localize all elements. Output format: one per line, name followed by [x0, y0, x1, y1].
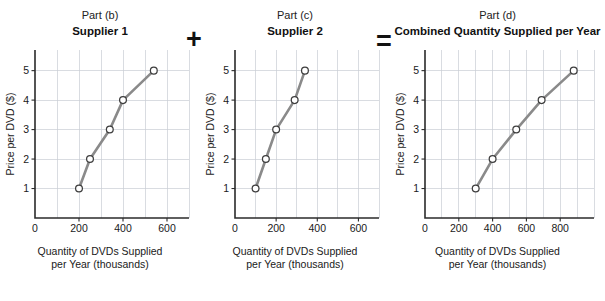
data-point — [273, 126, 280, 133]
ytick-label: 5 — [223, 64, 229, 76]
data-point — [472, 185, 479, 192]
plot-supplier-2: 020040060012345Price per DVD ($) — [205, 44, 385, 244]
ytick-label: 1 — [413, 182, 419, 194]
data-point — [252, 185, 259, 192]
panel-supplier-1: Part (b) Supplier 1 020040060012345Price… — [0, 0, 200, 272]
yaxis-label: Price per DVD ($) — [205, 92, 216, 175]
ytick-label: 2 — [413, 153, 419, 165]
data-point — [513, 126, 520, 133]
xtick-label: 400 — [309, 222, 327, 234]
ticks: 020040060012345 — [223, 64, 367, 234]
panel-combined: Part (d) Combined Quantity Supplied per … — [390, 0, 605, 272]
chart-svg-supplier-1: 020040060012345Price per DVD ($) — [5, 44, 195, 244]
xtick-label: 200 — [267, 222, 285, 234]
xtick-label: 200 — [450, 222, 468, 234]
ytick-label: 2 — [23, 153, 29, 165]
xtick-label: 0 — [232, 222, 238, 234]
chart-svg-combined: 020040060080012345Price per DVD ($) — [395, 44, 600, 244]
xtick-label: 400 — [484, 222, 502, 234]
data-point — [87, 156, 94, 163]
data-point — [291, 97, 298, 104]
xaxis-label-line2: per Year (thousands) — [435, 258, 560, 271]
xtick-label: 400 — [114, 222, 132, 234]
xtick-label: 200 — [70, 222, 88, 234]
xaxis-label-line1: Quantity of DVDs Supplied — [38, 245, 163, 257]
data-point — [76, 185, 83, 192]
ytick-label: 3 — [23, 123, 29, 135]
xtick-label: 600 — [518, 222, 536, 234]
data-point — [106, 126, 113, 133]
ytick-label: 4 — [223, 94, 229, 106]
xaxis-label-line1: Quantity of DVDs Supplied — [435, 245, 560, 257]
axis-lines — [35, 50, 189, 218]
ytick-label: 5 — [413, 64, 419, 76]
chart-group: 020040060012345Price per DVD ($) — [5, 50, 189, 234]
ticks: 020040060080012345 — [413, 64, 569, 234]
ytick-label: 4 — [413, 94, 419, 106]
ytick-label: 1 — [223, 182, 229, 194]
xaxis-label-line2: per Year (thousands) — [38, 258, 163, 271]
ytick-label: 3 — [223, 123, 229, 135]
xaxis-label-supplier-1: Quantity of DVDs Supplied per Year (thou… — [38, 245, 163, 272]
yaxis-label: Price per DVD ($) — [395, 92, 406, 175]
data-point — [262, 156, 269, 163]
ytick-label: 1 — [23, 182, 29, 194]
supply-curves-figure: Part (b) Supplier 1 020040060012345Price… — [0, 0, 605, 301]
part-label-d: Part (d) — [479, 9, 516, 22]
yaxis-label: Price per DVD ($) — [5, 92, 16, 175]
data-point — [150, 67, 157, 74]
plot-supplier-1: 020040060012345Price per DVD ($) — [5, 44, 195, 244]
panel-supplier-2: Part (c) Supplier 2 020040060012345Price… — [200, 0, 390, 272]
ytick-label: 5 — [23, 64, 29, 76]
data-point — [120, 97, 127, 104]
chart-svg-supplier-2: 020040060012345Price per DVD ($) — [205, 44, 385, 244]
chart-group: 020040060080012345Price per DVD ($) — [395, 50, 594, 234]
gridlines — [235, 50, 379, 218]
ytick-label: 2 — [223, 153, 229, 165]
xtick-label: 600 — [350, 222, 368, 234]
axes — [35, 50, 189, 218]
part-label-c: Part (c) — [277, 9, 313, 22]
data-point — [570, 67, 577, 74]
plot-combined: 020040060080012345Price per DVD ($) — [395, 44, 600, 244]
xtick-label: 0 — [32, 222, 38, 234]
part-label-b: Part (b) — [82, 9, 119, 22]
ytick-label: 4 — [23, 94, 29, 106]
panel-title-supplier-2: Supplier 2 — [267, 25, 323, 38]
xaxis-label-line2: per Year (thousands) — [233, 258, 358, 271]
ytick-label: 3 — [413, 123, 419, 135]
axis-lines — [235, 50, 379, 218]
xaxis-label-combined: Quantity of DVDs Supplied per Year (thou… — [435, 245, 560, 272]
data-point — [489, 156, 496, 163]
xaxis-label-supplier-2: Quantity of DVDs Supplied per Year (thou… — [233, 245, 358, 272]
xtick-label: 800 — [551, 222, 569, 234]
ticks: 020040060012345 — [23, 64, 176, 234]
xtick-label: 600 — [158, 222, 176, 234]
panel-title-combined: Combined Quantity Supplied per Year — [394, 25, 600, 38]
xaxis-label-line1: Quantity of DVDs Supplied — [233, 245, 358, 257]
gridlines — [35, 50, 189, 218]
xtick-label: 0 — [422, 222, 428, 234]
axes — [235, 50, 379, 218]
data-point — [538, 97, 545, 104]
panel-title-supplier-1: Supplier 1 — [72, 25, 128, 38]
data-point — [302, 67, 309, 74]
chart-group: 020040060012345Price per DVD ($) — [205, 50, 379, 234]
